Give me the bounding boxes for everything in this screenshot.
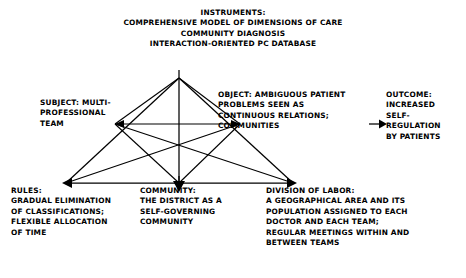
node-label-division-of-labor: DIVISION OF LABOR: A GEOGRAPHICAL AREA A… [266,186,466,248]
node-label-instruments: INSTRUMENTS: COMPREHENSIVE MODEL OF DIME… [0,8,466,50]
node-label-outcome: OUTCOME: INCREASED SELF- REGULATION BY P… [386,90,466,142]
node-label-subject: SUBJECT: MULTI- PROFESSIONAL TEAM [40,98,126,129]
inner-lower-triangle [115,124,240,183]
node-label-community: COMMUNITY: THE DISTRICT AS A SELF-GOVERN… [140,186,264,228]
diagram-canvas: INSTRUMENTS: COMPREHENSIVE MODEL OF DIME… [0,0,466,278]
node-label-rules: RULES: GRADUAL ELIMINATION OF CLASSIFICA… [11,186,141,238]
node-label-object: OBJECT: AMBIGUOUS PATIENT PROBLEMS SEEN … [218,90,378,132]
